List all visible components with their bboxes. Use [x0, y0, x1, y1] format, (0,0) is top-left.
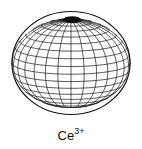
wireframe-mesh: [12, 12, 130, 115]
ion-charge: 3+: [74, 126, 84, 136]
ion-element: Ce: [58, 128, 75, 143]
ion-label: Ce3+: [0, 127, 142, 143]
